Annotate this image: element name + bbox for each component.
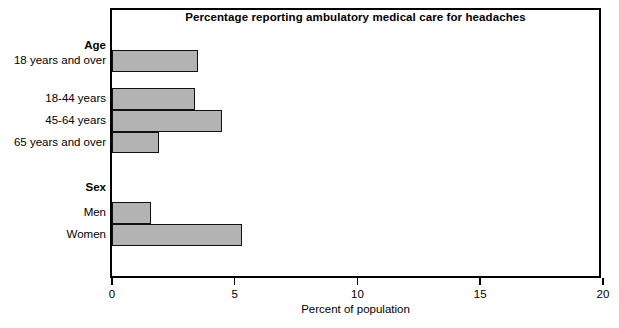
x-tick-label-10: 10 xyxy=(338,288,378,300)
group-label-age: Age xyxy=(0,39,106,51)
bar-65-years-and-over xyxy=(112,132,159,153)
bar-45-64-years xyxy=(112,110,222,132)
x-tick-15 xyxy=(479,278,481,285)
category-label-45-64-years: 45-64 years xyxy=(0,114,106,126)
x-tick-label-20: 20 xyxy=(583,288,619,300)
bar-men xyxy=(112,202,151,224)
category-label-18-years-and-over: 18 years and over xyxy=(0,54,106,66)
bars-layer xyxy=(112,10,599,276)
category-label-women: Women xyxy=(0,228,106,240)
group-label-sex: Sex xyxy=(0,181,106,193)
x-axis-title: Percent of population xyxy=(110,303,601,315)
bar-18-44-years xyxy=(112,88,195,110)
bar-women xyxy=(112,224,242,246)
x-tick-label-0: 0 xyxy=(92,288,132,300)
x-tick-0 xyxy=(111,278,113,285)
chart-container: Percentage reporting ambulatory medical … xyxy=(0,0,619,328)
x-tick-10 xyxy=(357,278,359,285)
category-label-18-44-years: 18-44 years xyxy=(0,92,106,104)
x-tick-5 xyxy=(234,278,236,285)
x-tick-label-5: 5 xyxy=(215,288,255,300)
category-label-men: Men xyxy=(0,206,106,218)
x-tick-label-15: 15 xyxy=(460,288,500,300)
category-label-65-years-and-over: 65 years and over xyxy=(0,136,106,148)
bar-18-years-and-over xyxy=(112,50,198,72)
x-tick-20 xyxy=(602,278,604,285)
